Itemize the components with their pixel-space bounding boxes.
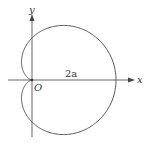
x-axis-arrow-icon xyxy=(128,78,135,83)
y-axis-label: y xyxy=(28,4,35,15)
y-axis-arrow-icon xyxy=(30,14,35,21)
cardioid-diagram: x y O 2a xyxy=(0,0,153,147)
origin-point xyxy=(31,79,33,81)
origin-label: O xyxy=(34,82,42,93)
x-axis-label: x xyxy=(137,74,143,85)
extent-label: 2a xyxy=(65,68,77,79)
